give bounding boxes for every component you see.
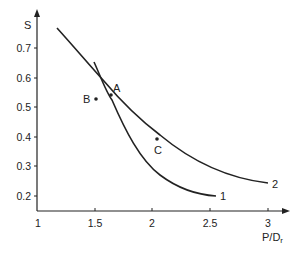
x-tick-label: 1.5 [88, 217, 103, 229]
x-tick-label: 2 [149, 217, 155, 229]
y-tick-labels: 0.7 0.6 0.5 0.4 0.3 0.2 [16, 42, 31, 202]
y-axis-label: S [24, 19, 31, 31]
x-tick-label: 1 [35, 217, 41, 229]
curve-2 [57, 28, 268, 183]
x-tick-label: 3 [265, 217, 271, 229]
point-c [155, 137, 159, 141]
curve-2-label: 2 [272, 178, 278, 190]
y-tick-label: 0.5 [16, 101, 31, 113]
curve-1-label: 1 [220, 190, 226, 202]
y-tick-label: 0.7 [16, 42, 31, 54]
point-b-label: B [83, 93, 90, 105]
x-axis-label: P/Dr [262, 231, 283, 245]
y-tick-label: 0.2 [16, 190, 31, 202]
x-tick-labels: 1 1.5 2 2.5 3 [35, 217, 271, 229]
point-c-label: C [154, 144, 162, 156]
point-a-label: A [113, 82, 121, 94]
y-tick-label: 0.6 [16, 72, 31, 84]
chart: 0.7 0.6 0.5 0.4 0.3 0.2 1 1.5 2 2.5 3 S … [0, 0, 296, 253]
x-tick-label: 2.5 [203, 217, 218, 229]
point-b [94, 97, 98, 101]
x-axis-arrow-icon [282, 208, 290, 214]
y-axis-arrow-icon [34, 9, 40, 17]
y-tick-label: 0.3 [16, 160, 31, 172]
y-tick-label: 0.4 [16, 131, 31, 143]
